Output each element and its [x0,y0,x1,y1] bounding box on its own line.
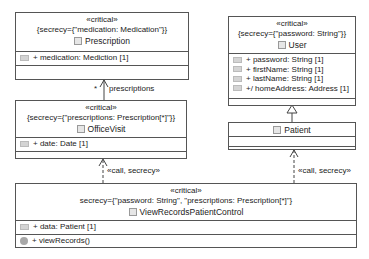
class-icon [77,125,85,133]
attribute-compartment: + medication: Mediction [1] [16,51,188,65]
class-officevisit[interactable]: «critical» {secrecy={"prescriptions: Pre… [15,100,187,159]
attribute-compartment [229,136,355,146]
operation-compartment [16,65,188,77]
attribute-compartment: + data: Patient [1] [16,220,356,234]
operation-compartment [16,151,186,163]
operation-compartment [229,146,355,155]
operation-compartment [229,98,355,111]
stereotype-label: «critical» [16,15,188,25]
operation-icon [20,237,28,245]
attribute-icon [20,141,29,147]
class-name: ViewRecordsPatientControl [140,207,244,217]
attribute-row[interactable]: + firstName: String [1] [233,65,351,75]
dependency-left-label: «call, secrecy» [107,166,160,175]
attribute-row[interactable]: + password: String [1] [233,55,351,65]
attribute-compartment: + password: String [1] + firstName: Stri… [229,53,355,98]
class-name: OfficeVisit [88,124,126,134]
secrecy-tag: secrecy={"password: String", "prescripti… [16,196,356,206]
class-icon [129,208,137,216]
stereotype-label: «critical» [229,19,355,29]
attribute-icon [20,55,29,61]
class-header: «critical» {secrecy={"medication: Medica… [16,13,188,49]
class-prescription[interactable]: «critical» {secrecy={"medication: Medica… [15,12,189,80]
class-icon [273,126,281,134]
secrecy-tag: {secrecy={"prescriptions: Prescription[*… [16,113,186,123]
class-icon [278,41,286,49]
class-header: «critical» {secrecy={"password: String"}… [229,17,355,53]
class-viewrecordspatientcontrol[interactable]: «critical» secrecy={"password: String", … [15,183,357,248]
class-icon [74,37,82,45]
attribute-icon [20,224,29,230]
association-role: prescriptions [109,84,154,93]
stereotype-label: «critical» [16,103,186,113]
attribute-row[interactable]: + date: Date [1] [20,139,182,149]
attribute-row[interactable]: + data: Patient [1] [20,222,352,232]
secrecy-tag: {secrecy={"password: String"}} [229,29,355,39]
attribute-row[interactable]: + medication: Mediction [1] [20,53,184,63]
class-name: Patient [284,125,310,135]
class-user[interactable]: «critical» {secrecy={"password: String"}… [228,16,356,106]
class-header: «critical» secrecy={"password: String", … [16,184,356,220]
operation-compartment: + viewRecords() [16,234,356,249]
dependency-right-label: «call, secrecy» [298,166,351,175]
attribute-row[interactable]: + lastName: String [1] [233,74,351,84]
attribute-row[interactable]: +/ homeAddress: Address [1] [233,84,351,94]
class-header: «critical» {secrecy={"prescriptions: Pre… [16,101,186,137]
class-patient[interactable]: Patient [228,122,356,150]
secrecy-tag: {secrecy={"medication: Medication"}} [16,25,188,35]
operation-row[interactable]: + viewRecords() [20,236,352,246]
association-multiplicity: * [94,84,97,93]
key-attribute-icon [233,57,242,63]
stereotype-label: «critical» [16,186,356,196]
attribute-compartment: + date: Date [1] [16,137,186,151]
key-attribute-icon [233,66,242,72]
key-attribute-icon [233,76,242,82]
class-header: Patient [229,123,355,136]
attribute-icon [233,85,242,91]
class-name: Prescription [85,36,130,46]
class-name: User [289,40,307,50]
